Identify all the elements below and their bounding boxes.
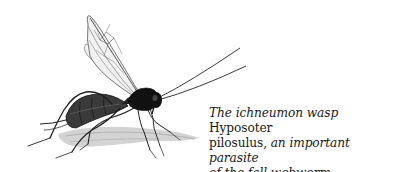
caption-species: pilosulus, xyxy=(209,136,267,150)
caption-genus: Hyposoter xyxy=(209,121,272,135)
caption-line-1: The ichneumon wasp Hyposoter xyxy=(209,106,399,136)
ground-shadow xyxy=(58,127,200,147)
caption-line-2: pilosulus, an important parasite xyxy=(209,136,399,166)
fore-wing xyxy=(87,16,142,100)
caption-common-name: The ichneumon wasp xyxy=(209,106,338,120)
antennae xyxy=(158,48,246,100)
caption-host: of the fall webworm. xyxy=(209,166,334,172)
figure-caption: The ichneumon wasp Hyposoter pilosulus, … xyxy=(209,106,399,172)
abdomen xyxy=(40,94,128,130)
figure: The ichneumon wasp Hyposoter pilosulus, … xyxy=(0,0,402,172)
head xyxy=(150,92,162,114)
caption-line-3: of the fall webworm. xyxy=(209,166,399,172)
